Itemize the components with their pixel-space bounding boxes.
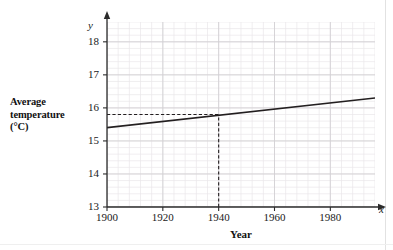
x-axis-title: Year	[107, 228, 375, 240]
x-tick-label: 1920	[140, 211, 186, 223]
y-tick-label: 15	[75, 134, 99, 146]
x-tick-label: 1940	[196, 211, 242, 223]
y-tick-label: 17	[75, 68, 99, 80]
y-tick-label: 16	[75, 101, 99, 113]
x-tick-label: 1960	[252, 211, 298, 223]
chart-page: Average temperature (°C) y x 13141516171…	[0, 0, 393, 250]
y-tick-label: 18	[75, 35, 99, 47]
x-tick-label: 1900	[84, 211, 130, 223]
x-tick-label: 1980	[307, 211, 353, 223]
y-tick-label: 14	[75, 167, 99, 179]
